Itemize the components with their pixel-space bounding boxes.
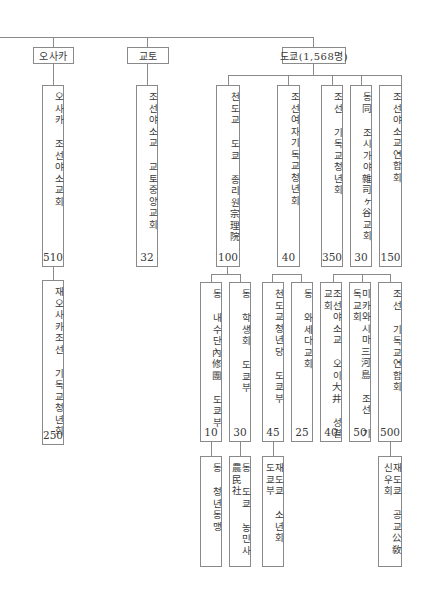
org-name: 재도쿄 소년회 도쿄부 (263, 463, 283, 566)
connector (390, 274, 391, 282)
member-count: 10 (201, 426, 221, 438)
connector (273, 442, 274, 456)
connector (301, 274, 302, 282)
org-name: 조선 기독교연합회 (379, 289, 401, 394)
member-count: 30 (351, 251, 371, 263)
org-name: 동 와세다교회 (292, 289, 312, 371)
org-name: 동 학생회 도쿄부 (230, 289, 250, 395)
connector (211, 274, 212, 282)
member-count: 100 (217, 251, 239, 263)
member-count: 25 (292, 426, 312, 438)
org-box: 조선야소교연합회 150 (379, 85, 402, 267)
org-name: 동 청년동맹 (201, 463, 221, 533)
org-name: 동 도쿄 농민사農民社 (230, 463, 250, 566)
member-count: 45 (263, 426, 283, 438)
org-name: 오사카 조선야소교회 (43, 92, 63, 208)
org-box: 동 학생회 도쿄부 30 (229, 282, 251, 442)
org-name: 조선여자기독교청년회 (278, 92, 299, 207)
org-box: 오사카 조선야소교회 510 (42, 85, 64, 267)
org-box: 조선 기독교연합회 500 (378, 282, 402, 442)
bracket-line (211, 274, 241, 275)
org-name: 재도쿄 공교公敎신우회 (379, 463, 401, 566)
connector (313, 64, 314, 75)
connector (240, 442, 241, 456)
connector (147, 64, 148, 85)
org-box: 동 도쿄 농민사農民社 (229, 456, 251, 567)
city-box-osaka: 오사카 (33, 47, 74, 64)
member-count: 40 (278, 251, 299, 263)
connector (390, 442, 391, 456)
org-name: 동同 조시가야雜司ヶ谷교회 (351, 92, 371, 243)
city-box-kyoto: 교토 (127, 47, 169, 64)
org-box: 동同 조시가야雜司ヶ谷교회 30 (350, 85, 372, 267)
member-count: 40 (321, 426, 341, 438)
org-box: 조선야소교 교토중앙교회 32 (136, 85, 158, 267)
member-count: 150 (380, 251, 401, 263)
org-name: 천도교 도쿄 종리원宗理院 (217, 92, 239, 244)
org-name: 미카와시마三河島 조선 기독교회 (350, 289, 370, 441)
org-box: 동 청년동맹 (200, 456, 222, 567)
org-box: 천도교청년당 도쿄부 45 (262, 282, 284, 442)
member-count: 32 (137, 251, 157, 263)
org-name: 조선야소교연합회 (380, 92, 401, 184)
member-count: 350 (322, 251, 342, 263)
org-name: 재오사카조선 기독교청년회 (43, 287, 63, 438)
member-count: 50 (350, 426, 370, 438)
org-name: 동 내수단內修團 도쿄부 (201, 289, 221, 429)
connector (362, 274, 363, 282)
city-box-tokyo: 도쿄(1,568명) (282, 47, 346, 64)
org-name: 천도교청년당 도쿄부 (263, 289, 283, 405)
org-box: 재도쿄 소년회 도쿄부 (262, 456, 284, 567)
member-count: 30 (230, 426, 250, 438)
connector (240, 274, 241, 282)
connector (401, 75, 402, 85)
member-count: 250 (43, 429, 63, 441)
org-box: 조선여자기독교청년회 40 (277, 85, 300, 267)
org-box: 재도쿄 공교公敎신우회 (378, 456, 402, 567)
org-box: 조선야소교 오이大井 성결교회 40 (320, 282, 342, 442)
tokyo-bracket-line (228, 75, 402, 76)
org-name: 조선야소교 오이大井 성결교회 (321, 289, 341, 441)
connector (288, 75, 289, 85)
connector (272, 274, 273, 282)
connector (53, 267, 54, 280)
member-count: 500 (379, 426, 401, 438)
connector (333, 274, 334, 282)
connector (211, 442, 212, 456)
bracket-line (272, 274, 302, 275)
connector (227, 267, 228, 274)
connector (53, 64, 54, 85)
connector (361, 75, 362, 85)
org-box: 천도교 도쿄 종리원宗理院 100 (216, 85, 240, 267)
org-name: 조선 기독교청년회 (322, 92, 342, 197)
org-box: 동 내수단內修團 도쿄부 10 (200, 282, 222, 442)
connector (228, 75, 229, 85)
top-connector-line (0, 37, 314, 38)
member-count: 510 (43, 251, 63, 263)
org-box: 조선 기독교청년회 350 (321, 85, 343, 267)
org-box: 동 와세다교회 25 (291, 282, 313, 442)
org-box: 미카와시마三河島 조선 기독교회 50 (349, 282, 371, 442)
org-box: 재오사카조선 기독교청년회 250 (42, 280, 64, 445)
connector (332, 75, 333, 85)
org-name: 조선야소교 교토중앙교회 (137, 92, 157, 231)
